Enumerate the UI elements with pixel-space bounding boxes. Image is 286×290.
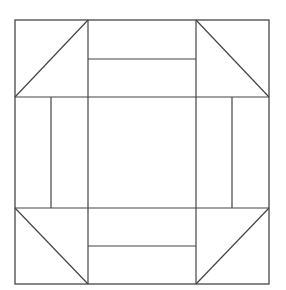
quilt-block-diagram (0, 0, 286, 290)
